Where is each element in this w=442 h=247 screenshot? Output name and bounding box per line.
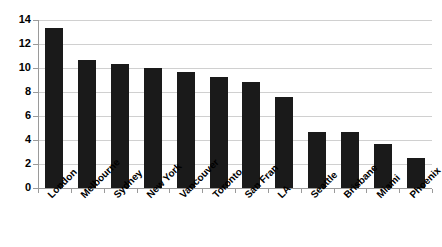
x-tick-mark xyxy=(38,189,39,193)
x-tick-label: New York xyxy=(145,161,184,200)
y-tick-mark xyxy=(33,44,38,45)
x-tick-mark xyxy=(104,189,105,193)
x-tick-mark xyxy=(399,189,400,193)
x-tick-mark xyxy=(169,189,170,193)
x-tick-mark xyxy=(268,189,269,193)
x-tick-label: Phoenix xyxy=(408,165,442,200)
x-tick-mark xyxy=(137,189,138,193)
x-tick-label: Sydney xyxy=(112,168,144,200)
x-tick-label: Brisbane xyxy=(342,163,379,200)
x-tick-label: Toronto xyxy=(211,167,244,200)
x-tick-mark xyxy=(235,189,236,193)
x-tick-label: London xyxy=(46,167,79,200)
y-tick-mark xyxy=(33,92,38,93)
y-tick-mark xyxy=(33,164,38,165)
x-tick-mark xyxy=(202,189,203,193)
x-tick-label: LA xyxy=(276,184,293,201)
y-tick-mark xyxy=(33,140,38,141)
x-tick-mark xyxy=(366,189,367,193)
y-tick-mark xyxy=(33,116,38,117)
x-tick-mark xyxy=(432,189,433,193)
y-tick-mark xyxy=(33,68,38,69)
y-tick-mark xyxy=(33,20,38,21)
x-tick-label: San Fran xyxy=(243,163,280,200)
x-tick-label: Miami xyxy=(375,173,402,200)
x-tick-mark xyxy=(334,189,335,193)
x-tick-label: Seattle xyxy=(309,170,339,200)
x-tick-mark xyxy=(301,189,302,193)
x-tick-mark xyxy=(71,189,72,193)
